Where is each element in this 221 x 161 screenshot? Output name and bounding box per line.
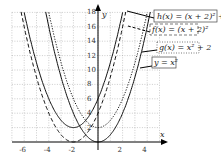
svg-text:y = x²: y = x² [153,58,178,67]
y-axis-label: y [101,10,107,19]
svg-text:18: 18 [87,8,96,16]
svg-text:-6: -6 [19,146,26,154]
svg-text:10: 10 [87,66,96,74]
svg-text:16: 16 [87,23,96,31]
x-arrow-icon [161,139,168,145]
legend-g: g(x) = x² + 2 [142,42,211,53]
svg-text:h(x) = (x + 2)² + 2: h(x) = (x + 2)² + 2 [157,12,221,21]
svg-text:8: 8 [87,80,91,88]
legend-h: h(x) = (x + 2)² + 2 [127,10,221,22]
svg-text:f(x) = (x + 2)²: f(x) = (x + 2)² [151,25,208,34]
svg-text:4: 4 [142,146,147,154]
svg-text:-4: -4 [44,146,51,154]
grid [12,12,160,142]
svg-text:12: 12 [87,52,96,60]
legend-y: y = x² [140,57,178,68]
svg-text:4: 4 [87,109,92,117]
svg-text:2: 2 [87,124,91,132]
svg-text:-2: -2 [68,146,75,154]
legend-f: f(x) = (x + 2)² [128,24,208,35]
svg-text:14: 14 [87,37,96,45]
chart: -6-4-22424681012141618 x y h(x) = (x + 2… [0,0,221,161]
svg-text:g(x) = x² + 2: g(x) = x² + 2 [159,43,211,52]
svg-text:6: 6 [87,95,92,103]
svg-text:2: 2 [118,146,122,154]
x-axis-label: x [160,130,165,139]
